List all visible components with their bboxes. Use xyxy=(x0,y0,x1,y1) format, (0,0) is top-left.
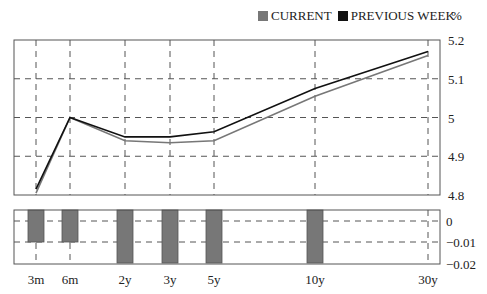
y-tick-label: 4.9 xyxy=(448,149,464,164)
bar-10y xyxy=(307,210,323,263)
bar-3m xyxy=(28,210,44,242)
bar-panel: 0−0.01−0.02 xyxy=(14,210,476,272)
bar-y-tick-label: −0.01 xyxy=(446,235,476,250)
y-tick-label: 4.8 xyxy=(448,188,464,203)
x-tick-label: 10y xyxy=(305,272,325,287)
y-tick-label: 5.1 xyxy=(448,72,464,87)
y-tick-label: 5 xyxy=(448,111,455,126)
x-tick-label: 3y xyxy=(164,272,178,287)
yield-curve-chart: 5.25.154.94.80−0.01−0.023m6m2y3y5y10y30y xyxy=(0,0,487,294)
x-tick-label: 2y xyxy=(119,272,133,287)
x-tick-label: 6m xyxy=(62,272,79,287)
x-tick-label: 3m xyxy=(28,272,45,287)
y-tick-label: 5.2 xyxy=(448,33,464,48)
x-tick-label: 5y xyxy=(208,272,222,287)
bar-3y xyxy=(162,210,178,263)
bar-y-tick-label: 0 xyxy=(446,214,453,229)
bar-2y xyxy=(117,210,133,263)
line-panel: 5.25.154.94.8 xyxy=(14,33,464,203)
bar-y-tick-label: −0.02 xyxy=(446,257,476,272)
x-tick-label: 30y xyxy=(418,272,438,287)
bar-6m xyxy=(62,210,78,242)
series-line-previous-week xyxy=(36,52,428,190)
bar-5y xyxy=(206,210,222,263)
